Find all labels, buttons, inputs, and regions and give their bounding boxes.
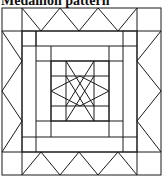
bottom-sawtooth (22, 152, 137, 175)
left-sawtooth (2, 31, 22, 152)
right-sawtooth (137, 31, 161, 152)
frame-1 (22, 31, 137, 152)
medallion-quilt-diagram (0, 0, 163, 177)
star-diamond-e (51, 76, 109, 106)
top-sawtooth (22, 8, 137, 31)
center-star-block (51, 61, 109, 121)
